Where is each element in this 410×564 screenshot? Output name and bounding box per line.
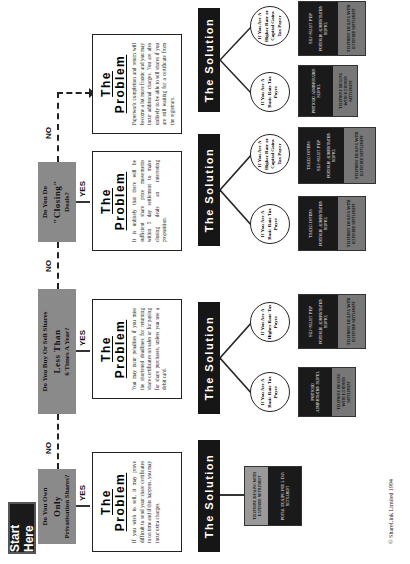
problem-title: The Problem [99,461,127,543]
solution-option: Traded OptionsSelf-Select PEPPortfolio A… [298,127,376,184]
option-text: Telephone Dealing With Extended Settleme… [354,130,364,181]
option-text: Postal Dealing For 5 Day Settlement [280,469,290,523]
yes-label-3: YES [78,181,87,197]
problem-title: The Problem [99,308,127,390]
solution-option-1: Postal Dealing For 5 Day Settlement Tele… [244,466,302,526]
connector [220,495,244,497]
q1-big: Only [51,496,63,517]
circle-higher-rate-cgt: If You Are A Higher Rate or Capital Gain… [250,6,290,46]
solution-option: Self-Select PEPPortfolio Administration … [298,1,366,56]
solution-header-4: The Solution [198,8,220,112]
option-text: Self-Select PEP [308,297,313,346]
option-text: Telephone Dealing With Extended Settleme… [346,4,356,53]
problem-text: It is unlikely that there will be suffic… [131,160,169,242]
no-label-3: NO [44,127,53,139]
option-text: Portfolio Administration Service [310,370,320,414]
no-connector-3 [57,92,59,162]
option-text: Self-Select PEP [308,4,313,53]
circle-basic-rate: If You Are A Basic Rate Tax Payer [250,372,290,412]
question-less-than-6: Do You Buy Or Sell Shares Less Than 6 Ti… [38,289,76,414]
problem-text: If you wish to sell, it may prove diffic… [131,461,161,543]
solution-option: Portfolio Administration Service Telepho… [298,367,356,417]
question-closing-deals: Do You Do "Closing" Deals? [38,162,76,242]
option-text: Portfolio Administration Service [326,130,336,181]
option-text: Telephone Dealing With Extended Settleme… [346,297,356,346]
yes-connector-2 [76,350,90,352]
option-text: Self-Select PEP [316,130,321,181]
solution-title: The Solution [203,454,215,539]
option-text: Portfolio Administration Service [318,199,328,248]
no-connector-1 [57,414,59,469]
circle-text: If You Are A Higher Rate or Capital Gain… [257,135,283,173]
circle-higher-rate: If You Are A Higher Rate Tax Payer [250,302,290,342]
problem-title: The Problem [99,160,127,242]
yes-connector-1 [76,505,90,507]
circle-text: If You Are A Basic Rate Tax Payer [260,205,280,243]
branch-lines [220,302,252,414]
solution-title: The Solution [203,316,215,401]
copyright-text: © ShareLink Limited 1994 [388,479,394,544]
solution-title: The Solution [203,148,215,233]
yes-label-1: YES [78,485,87,501]
circle-text: If You Are A Basic Rate Tax Payer [260,73,280,111]
yes-connector-3 [76,201,90,203]
q3-line3: Deals? [63,192,72,212]
option-dark: Postal Dealing For 5 Day Settlement [268,467,301,525]
problem-box-3: The Problem It is unlikely that there wi… [92,151,182,251]
option-text: Portfolio Administration Service [318,297,328,346]
q3-big: "Closing" [51,180,63,224]
no-label-2: NO [44,260,53,272]
circle-higher-rate-cgt: If You Are A Higher Rate or Capital Gain… [250,134,290,174]
option-text: Telephone Dealing With Extended Settleme… [336,370,351,414]
problem-box-2: The Problem You may incur penalties if y… [92,299,182,399]
start-label: Start Here [8,504,36,552]
solution-option: Traded OptionsPortfolio Administration S… [298,196,366,251]
yes-label-2: YES [78,330,87,346]
solution-option: Self-Select PEPPortfolio Administration … [298,294,366,349]
q2-big: Less Than [51,329,63,373]
q1-line3: Privatisation Shares? [63,475,72,539]
no-connector-3-down [57,92,91,94]
option-text: Telephone Dealing With Extended Settleme… [346,199,356,248]
problem-title: The Problem [99,43,127,125]
solution-header-2: The Solution [198,302,220,414]
branch-lines [220,134,252,246]
q2-line1: Do You Buy Or Sell Shares [41,311,50,391]
problem-text: You may incur penalties if you miss the … [131,308,169,390]
option-grey: Telephone Dealing With Extended Settleme… [245,467,268,525]
option-text: Traded Options [306,130,311,181]
q3-line1: Do You Do [41,186,50,218]
solution-header-3: The Solution [198,134,220,246]
solution-title: The Solution [203,18,215,103]
problem-text: Paperwork completion and return will bec… [131,43,176,125]
option-text: Telephone Dealing With Extended Settleme… [252,469,262,523]
q2-line3: 6 Times A Year? [63,327,72,375]
option-text: Traded Options [308,199,313,248]
solution-header-1: The Solution [198,440,220,552]
start-here-box: Start Here [8,502,36,554]
option-text: Portfolio Administration Service [311,68,321,114]
question-privatisation: Do You Own Only Privatisation Shares? [38,469,76,544]
circle-basic-rate: If You Are A Basic Rate Tax Payer [250,204,290,244]
problem-box-1: The Problem If you wish to sell, it may … [92,452,182,552]
circle-text: If You Are A Basic Rate Tax Payer [260,373,280,411]
no-label-1: NO [44,442,53,454]
branch-lines [220,6,252,114]
no-connector-2 [57,242,59,289]
option-text: Telephone Dealing With Extended Settleme… [338,68,353,114]
circle-basic-rate: If You Are A Basic Rate Tax Payer [250,72,290,112]
option-text: Portfolio Administration Service [318,4,328,53]
solution-option: Portfolio Administration Service Telepho… [298,65,358,117]
circle-text: If You Are A Higher Rate or Capital Gain… [257,7,283,45]
q1-line1: Do You Own [41,488,50,526]
circle-text: If You Are A Higher Rate Tax Payer [260,303,280,341]
flowchart-canvas: Start Here Do You Own Only Privatisation… [0,0,410,564]
problem-box-4: The Problem Paperwork completion and ret… [92,34,182,134]
